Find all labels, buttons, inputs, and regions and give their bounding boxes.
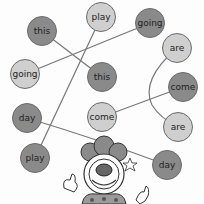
bubble-are-bottom[interactable]: are bbox=[163, 112, 193, 142]
bubble-going-left[interactable]: going bbox=[10, 59, 40, 89]
bubble-are-top[interactable]: are bbox=[162, 33, 192, 63]
word-matching-worksheet: this play going going this are come day … bbox=[0, 0, 204, 204]
right-hand-icon bbox=[136, 186, 149, 204]
clown-illustration bbox=[60, 130, 150, 204]
left-hand-icon bbox=[64, 174, 78, 192]
bubble-going-top[interactable]: going bbox=[135, 8, 165, 38]
bubble-this-mid[interactable]: this bbox=[87, 62, 117, 92]
star-icon bbox=[123, 158, 137, 171]
bubble-day-left[interactable]: day bbox=[12, 103, 42, 133]
bubble-play-bottom[interactable]: play bbox=[20, 143, 50, 173]
bubble-this-top[interactable]: this bbox=[27, 16, 57, 46]
bubble-come-right[interactable]: come bbox=[168, 72, 198, 102]
bubble-come-mid[interactable]: come bbox=[87, 102, 117, 132]
bubble-day-right[interactable]: day bbox=[152, 150, 182, 180]
bubble-play-top[interactable]: play bbox=[86, 2, 116, 32]
